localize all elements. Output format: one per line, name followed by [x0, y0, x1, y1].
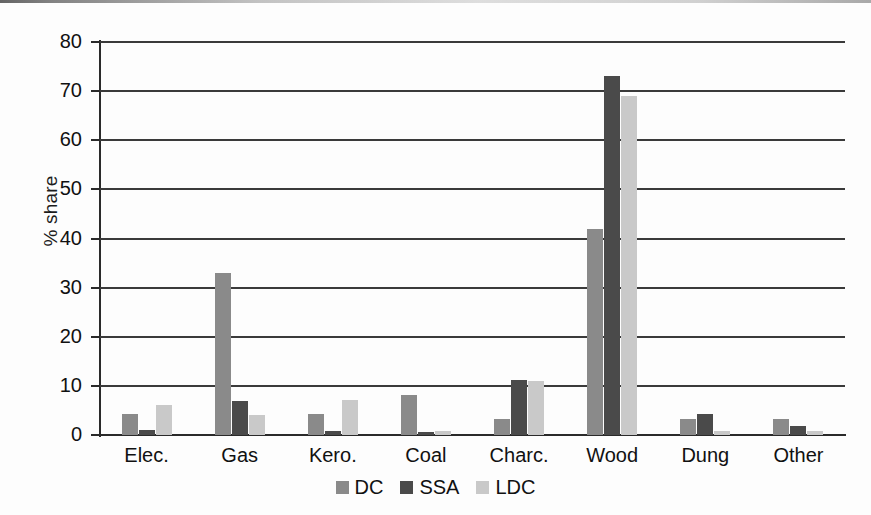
bar-group-elec [122, 42, 172, 435]
gridline-30 [100, 287, 845, 289]
y-tick-mark-20 [91, 336, 100, 338]
legend-label-dc: DC [355, 477, 384, 497]
legend-swatch-ssa-icon [400, 481, 413, 494]
y-tick-mark-30 [91, 287, 100, 289]
bar-group-other [773, 42, 823, 435]
y-tick-label-20: 20 [38, 326, 82, 346]
bar-ldc-coal [435, 431, 451, 435]
bar-dc-kero [308, 414, 324, 435]
bar-ldc-other [807, 431, 823, 435]
y-tick-label-50: 50 [38, 178, 82, 198]
y-tick-label-70: 70 [38, 80, 82, 100]
bar-ssa-charc [511, 380, 527, 435]
bar-ldc-kero [342, 400, 358, 435]
y-tick-mark-60 [91, 139, 100, 141]
y-tick-mark-80 [91, 41, 100, 43]
bar-ldc-elec [156, 405, 172, 435]
bar-dc-gas [215, 273, 231, 435]
legend-label-ldc: LDC [495, 477, 535, 497]
bar-group-coal [401, 42, 451, 435]
bar-group-charc [494, 42, 544, 435]
bar-dc-wood [587, 229, 603, 435]
bar-ssa-wood [604, 76, 620, 435]
y-tick-label-30: 30 [38, 277, 82, 297]
gridline-50 [100, 188, 845, 190]
bar-ssa-kero [325, 431, 341, 435]
bar-ldc-dung [714, 431, 730, 435]
bar-group-gas [215, 42, 265, 435]
bar-dc-other [773, 419, 789, 435]
gridline-10 [100, 385, 845, 387]
y-tick-label-10: 10 [38, 375, 82, 395]
y-tick-mark-40 [91, 238, 100, 240]
bar-dc-dung [680, 419, 696, 435]
y-tick-mark-50 [91, 188, 100, 190]
y-tick-label-80: 80 [38, 31, 82, 51]
bar-ssa-gas [232, 401, 248, 435]
legend-swatch-ldc-icon [476, 481, 489, 494]
y-tick-mark-70 [91, 90, 100, 92]
gridline-40 [100, 238, 845, 240]
legend-item-ldc[interactable]: LDC [476, 477, 535, 497]
y-tick-label-0: 0 [38, 424, 82, 444]
bar-ssa-other [790, 426, 806, 435]
legend-item-dc[interactable]: DC [336, 477, 384, 497]
gridline-20 [100, 336, 845, 338]
y-tick-mark-10 [91, 385, 100, 387]
gridline-80 [100, 41, 845, 43]
chart-legend: DCSSALDC [0, 477, 871, 497]
bar-chart-figure: % share 80706050403020100 DCSSALDC Elec.… [0, 0, 871, 515]
bar-ldc-charc [528, 381, 544, 435]
bar-group-dung [680, 42, 730, 435]
y-tick-mark-0 [91, 434, 100, 436]
y-axis-tick-labels: 80706050403020100 [38, 0, 82, 515]
legend-item-ssa[interactable]: SSA [400, 477, 459, 497]
bar-group-kero [308, 42, 358, 435]
y-tick-label-40: 40 [38, 228, 82, 248]
legend-swatch-dc-icon [336, 481, 349, 494]
gridline-70 [100, 90, 845, 92]
bar-dc-elec [122, 414, 138, 435]
bar-ldc-wood [621, 96, 637, 435]
bar-group-wood [587, 42, 637, 435]
x-tick-label-other: Other [728, 444, 868, 467]
bar-ssa-dung [697, 414, 713, 435]
bar-dc-coal [401, 395, 417, 435]
bar-ldc-gas [249, 415, 265, 435]
scan-artifact-edge [0, 0, 871, 3]
bar-dc-charc [494, 419, 510, 435]
bar-ssa-coal [418, 432, 434, 435]
legend-label-ssa: SSA [419, 477, 459, 497]
y-tick-label-60: 60 [38, 129, 82, 149]
plot-area [100, 42, 845, 435]
gridline-60 [100, 139, 845, 141]
bar-ssa-elec [139, 430, 155, 435]
